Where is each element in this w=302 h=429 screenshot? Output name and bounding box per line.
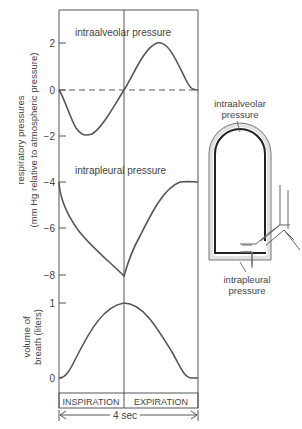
tick-label: 0 — [49, 373, 55, 384]
diagram-intrapleural-label-1: intrapleural — [224, 274, 271, 285]
tick-label: −2 — [44, 131, 56, 142]
intrapleural-label: intrapleural pressure — [75, 165, 167, 176]
lung-diagram — [209, 121, 300, 272]
duration-label: 4 sec — [113, 410, 137, 421]
tick-label: 0 — [49, 85, 55, 96]
volume-curve — [59, 303, 198, 378]
expiration-label: EXPIRATION — [134, 397, 188, 407]
tick-label: 2 — [49, 38, 55, 49]
tick-label: −8 — [44, 270, 56, 281]
intrapleural-curve — [59, 182, 198, 276]
diagram-intraalveolar-label-1: intraalveolar — [214, 98, 266, 109]
diagram-intrapleural-label-2: pressure — [229, 285, 266, 296]
volume-axis-label-line2: breath (liters) — [32, 309, 43, 365]
respiratory-chart: 2 0 −2 −4 −6 −8 1 0 respiratory pressure… — [0, 0, 302, 429]
intraalveolar-curve — [59, 43, 198, 135]
y-axis-label-line2: (mm Hg relative to atmospheric pressure) — [28, 53, 39, 228]
tick-label: 1 — [49, 298, 55, 309]
y-axis-label-line1: respiratory pressures — [15, 95, 26, 184]
tick-label: −6 — [44, 223, 56, 234]
tick-label: −4 — [44, 177, 56, 188]
inspiration-label: INSPIRATION — [63, 397, 120, 407]
diagram-intraalveolar-label-2: pressure — [222, 109, 259, 120]
intraalveolar-label: intraalveolar pressure — [75, 27, 172, 38]
volume-axis-label-line1: volume of — [21, 316, 32, 358]
